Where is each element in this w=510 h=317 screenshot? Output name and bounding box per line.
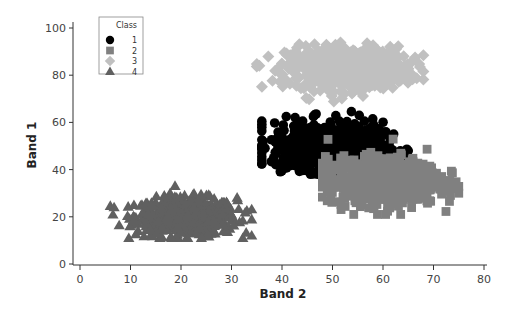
point-class-2 [448, 178, 457, 187]
point-class-1 [281, 112, 291, 122]
legend-label: 1 [132, 36, 137, 45]
x-axis-ticks: 01020304050607080 [77, 265, 492, 286]
point-class-2 [437, 172, 446, 181]
point-class-1 [339, 124, 349, 134]
square-icon [106, 47, 114, 55]
point-class-1 [267, 135, 277, 145]
scatter-chart: 020406080100 01020304050607080 Band 2 Ba… [0, 0, 510, 317]
point-class-2 [454, 189, 463, 198]
point-class-1 [274, 159, 284, 169]
point-class-2 [409, 170, 418, 179]
point-class-1 [309, 112, 319, 122]
point-class-2 [425, 162, 434, 171]
circle-icon [106, 36, 114, 44]
point-class-2 [324, 135, 333, 144]
y-axis-ticks: 020406080100 [45, 22, 73, 271]
point-class-4 [232, 192, 243, 202]
x-tick-label: 60 [376, 273, 390, 286]
point-class-1 [294, 119, 304, 129]
x-tick-label: 10 [124, 273, 138, 286]
point-class-1 [291, 151, 301, 161]
series-class-4 [105, 180, 258, 242]
point-class-2 [352, 178, 361, 187]
point-class-4 [241, 227, 252, 237]
point-class-2 [339, 162, 348, 171]
y-tick-label: 40 [52, 164, 66, 177]
point-class-2 [361, 182, 370, 191]
point-class-4 [114, 220, 125, 230]
point-class-1 [359, 134, 369, 144]
point-class-2 [358, 200, 367, 209]
x-tick-label: 20 [174, 273, 188, 286]
point-class-1 [279, 126, 289, 136]
point-class-1 [270, 118, 280, 128]
point-class-2 [394, 190, 403, 199]
y-axis-title: Band 1 [25, 122, 39, 169]
x-tick-label: 50 [326, 273, 340, 286]
point-class-2 [415, 192, 424, 201]
point-class-2 [447, 167, 456, 176]
x-tick-label: 0 [77, 273, 84, 286]
point-class-2 [446, 191, 455, 200]
point-class-1 [353, 123, 363, 133]
point-class-2 [318, 167, 327, 176]
point-class-2 [442, 207, 451, 216]
y-tick-label: 60 [52, 116, 66, 129]
point-class-2 [366, 148, 375, 157]
point-class-2 [378, 154, 387, 163]
x-tick-label: 80 [477, 273, 491, 286]
data-points [105, 37, 463, 242]
point-class-2 [407, 195, 416, 204]
point-class-2 [372, 181, 381, 190]
y-tick-label: 100 [45, 22, 66, 35]
x-tick-label: 40 [275, 273, 289, 286]
point-class-2 [381, 210, 390, 219]
legend-label: 2 [132, 47, 137, 56]
point-class-2 [389, 135, 398, 144]
point-class-1 [257, 116, 267, 126]
point-class-2 [423, 199, 432, 208]
series-class-3 [251, 37, 430, 108]
point-class-2 [368, 167, 377, 176]
point-class-3 [256, 81, 268, 93]
legend: Class 1234 [99, 17, 143, 77]
point-class-1 [326, 121, 336, 131]
point-class-1 [301, 166, 311, 176]
point-class-1 [258, 137, 268, 147]
point-class-1 [307, 147, 317, 157]
x-axis-title: Band 2 [260, 287, 307, 301]
y-tick-label: 0 [59, 258, 66, 271]
y-tick-label: 80 [52, 69, 66, 82]
point-class-2 [389, 160, 398, 169]
legend-label: 3 [132, 57, 137, 66]
point-class-2 [396, 210, 405, 219]
point-class-2 [423, 145, 432, 154]
point-class-1 [347, 107, 357, 117]
y-tick-label: 20 [52, 211, 66, 224]
point-class-2 [329, 183, 338, 192]
legend-label: 4 [132, 68, 137, 77]
point-class-2 [408, 182, 417, 191]
point-class-3 [262, 51, 274, 63]
point-class-1 [313, 125, 323, 135]
point-class-1 [305, 134, 315, 144]
legend-title: Class [116, 21, 137, 30]
x-tick-label: 30 [225, 273, 239, 286]
point-class-2 [341, 202, 350, 211]
point-class-2 [343, 190, 352, 199]
point-class-4 [169, 180, 180, 190]
point-class-1 [348, 144, 358, 154]
point-class-2 [382, 171, 391, 180]
point-class-1 [327, 144, 337, 154]
x-tick-label: 70 [427, 273, 441, 286]
point-class-2 [373, 200, 382, 209]
point-class-1 [287, 141, 297, 151]
point-class-2 [407, 203, 416, 212]
point-class-2 [323, 196, 332, 205]
point-class-1 [257, 159, 267, 169]
point-class-2 [397, 150, 406, 159]
point-class-1 [378, 117, 388, 127]
point-class-2 [349, 210, 358, 219]
